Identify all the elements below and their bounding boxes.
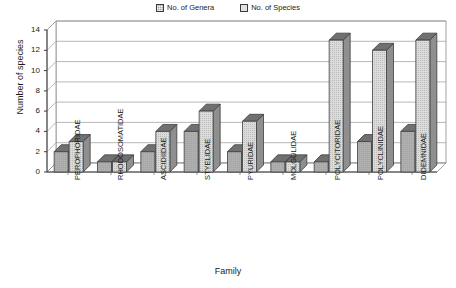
x-axis-label-styelidae: STYELIDAE	[203, 139, 212, 180]
bar-front-genera-2	[141, 152, 155, 172]
bars-layer	[0, 0, 456, 288]
bar-chart: No. of Genera No. of Species	[0, 0, 456, 288]
bar-front-genera-6	[314, 162, 328, 172]
bar-front-genera-3	[184, 131, 198, 172]
y-axis-title: Number of species	[15, 12, 25, 142]
y-tick-2: 2	[22, 148, 40, 156]
x-axis-label-molgulidae: MOLGULIDAE	[289, 131, 298, 180]
bar-side-species-3	[213, 104, 220, 172]
x-axis-label-perophoridae: PEROPHORIDAE	[73, 120, 82, 180]
y-tick-0: 0	[22, 168, 40, 176]
bar-side-species-6	[343, 33, 350, 172]
bar-front-genera-0	[54, 152, 68, 172]
bar-front-genera-8	[401, 131, 415, 172]
bar-front-genera-5	[271, 162, 285, 172]
x-axis-label-ascidiidae: ASCIDIIDAE	[159, 137, 168, 180]
bar-front-genera-4	[228, 152, 242, 172]
bar-front-genera-7	[358, 142, 372, 172]
x-axis-title: Family	[0, 266, 456, 276]
x-axis-label-pyuridae: PYURIDAE	[246, 142, 255, 180]
x-axis-label-polycitoridae: POLYCITORIDAE	[333, 120, 342, 180]
bar-side-species-4	[257, 114, 264, 172]
bar-side-species-7	[387, 43, 394, 172]
bar-front-genera-1	[98, 162, 112, 172]
x-axis-label-didemnidae: DIDEMNIDAE	[419, 133, 428, 180]
bar-side-species-2	[170, 124, 177, 172]
plot-area: 0 2 4 6 8 10 12 14 Number of species PER…	[0, 0, 456, 288]
bar-side-species-8	[430, 33, 437, 172]
x-axis-label-rhodosomatidae: RHODOSOMATIDAE	[116, 108, 125, 180]
x-axis-label-polyclinidae: POLYCLINIDAE	[376, 126, 385, 180]
